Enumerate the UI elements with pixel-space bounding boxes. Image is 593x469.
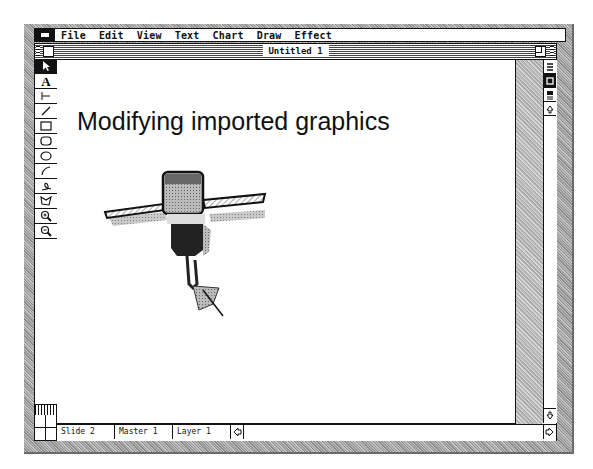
arc-tool[interactable]: [35, 164, 57, 179]
zoom-box-icon[interactable]: [535, 46, 546, 57]
apple-menu-icon[interactable]: [35, 28, 55, 42]
slide-view-icon[interactable]: [544, 60, 556, 74]
rounded-rectangle-tool[interactable]: [35, 134, 57, 149]
polygon-tool[interactable]: [35, 194, 57, 209]
tile-button[interactable]: [35, 428, 46, 441]
perpendicular-line-icon: [39, 90, 53, 102]
menu-file[interactable]: File: [61, 30, 86, 41]
diagonal-line-tool[interactable]: [35, 104, 57, 119]
tile-button[interactable]: [46, 415, 57, 428]
document-window: Untitled 1 A: [34, 43, 557, 441]
freehand-tool[interactable]: [35, 179, 57, 194]
rounded-rectangle-icon: [39, 135, 53, 147]
slide-title[interactable]: Modifying imported graphics: [77, 107, 390, 136]
notes-view-icon[interactable]: [544, 88, 556, 102]
title-bar[interactable]: Untitled 1: [35, 44, 556, 60]
menu-bar: File Edit View Text Chart Draw Effect: [34, 28, 566, 42]
satellite-clipart[interactable]: [97, 160, 277, 320]
pasteboard-area: [516, 60, 543, 424]
menu-effect[interactable]: Effect: [295, 30, 332, 41]
slide-sorter-icon[interactable]: [544, 74, 556, 88]
scroll-down-icon[interactable]: [544, 408, 556, 423]
tile-button[interactable]: [35, 415, 46, 428]
rectangle-icon: [39, 120, 53, 132]
zoom-out-icon: [39, 225, 53, 237]
pointer-tool[interactable]: [35, 59, 57, 74]
text-tool-icon: A: [41, 75, 50, 88]
oval-tool[interactable]: [35, 149, 57, 164]
orthogonal-line-tool[interactable]: [35, 89, 57, 104]
close-box-icon[interactable]: [43, 46, 54, 57]
menu-text[interactable]: Text: [175, 30, 200, 41]
arrow-pointer-icon: [41, 60, 51, 72]
layer-field[interactable]: Layer 1: [173, 425, 231, 439]
slide-number-field[interactable]: Slide 2: [57, 425, 115, 439]
zoom-in-icon: [39, 210, 53, 222]
polygon-icon: [39, 195, 53, 207]
arc-icon: [39, 165, 53, 177]
menu-draw[interactable]: Draw: [257, 30, 282, 41]
menu-chart[interactable]: Chart: [213, 30, 244, 41]
slide-canvas[interactable]: Modifying imported graphics: [57, 60, 517, 424]
menu-edit[interactable]: Edit: [99, 30, 124, 41]
tile-button[interactable]: [46, 428, 57, 441]
oval-icon: [39, 150, 53, 162]
window-grip-icon: [36, 46, 40, 56]
palette-blank-area: [35, 262, 58, 404]
master-field[interactable]: Master 1: [115, 425, 173, 439]
vertical-scrollbar[interactable]: [543, 60, 557, 423]
view-tile-buttons[interactable]: [35, 415, 57, 441]
zoom-in-tool[interactable]: [35, 209, 57, 224]
scroll-right-icon[interactable]: [543, 425, 556, 439]
horizontal-scroll-track[interactable]: [244, 425, 543, 439]
rectangle-tool[interactable]: [35, 119, 57, 134]
scroll-left-icon[interactable]: [231, 425, 244, 439]
status-bar: Slide 2 Master 1 Layer 1: [57, 424, 556, 441]
window-title: Untitled 1: [262, 45, 328, 57]
menu-view[interactable]: View: [137, 30, 162, 41]
diagonal-line-icon: [39, 105, 53, 117]
freehand-icon: [39, 180, 53, 192]
text-tool[interactable]: A: [35, 74, 57, 89]
window-grip-icon: [550, 46, 554, 56]
zoom-out-tool[interactable]: [35, 224, 57, 239]
scroll-up-icon[interactable]: [544, 102, 556, 116]
tool-palette: A: [35, 59, 58, 239]
